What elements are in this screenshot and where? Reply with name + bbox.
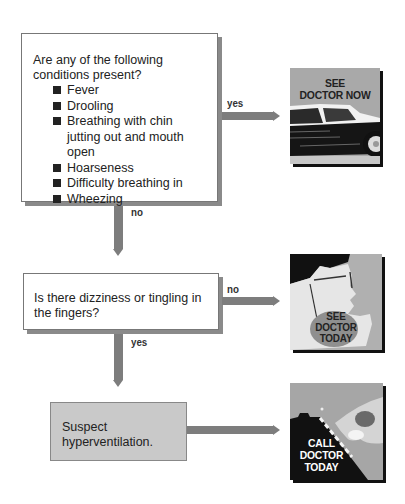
outcome-label: SEE DOCTOR NOW [295, 77, 376, 101]
outcome-see-doctor-now: SEE DOCTOR NOW [290, 68, 380, 164]
condition-item: Wheezing [53, 192, 207, 207]
question-box-dizziness: Is there dizziness or tingling in the fi… [23, 273, 219, 330]
question-prompt: Are any of the following conditions pres… [33, 53, 207, 83]
conclusion-arrow [187, 426, 273, 434]
outcome-label: CALL DOCTOR TODAY [290, 437, 377, 473]
question-box-conditions: Are any of the following conditions pres… [21, 33, 218, 202]
yes-arrow [222, 112, 273, 120]
condition-item: Difficulty breathing in [53, 176, 207, 191]
condition-item: Fever [53, 83, 207, 98]
yes-label: yes [131, 336, 147, 348]
no-label: no [131, 206, 143, 218]
no-label: no [227, 283, 239, 295]
conclusion-text: Suspect hyperventilation. [62, 420, 176, 450]
no-arrow [114, 206, 123, 249]
conclusion-box: Suspect hyperventilation. [50, 402, 187, 461]
outcome-call-doctor-today: CALL DOCTOR TODAY [290, 383, 383, 480]
outcome-label: SEE DOCTOR TODAY [295, 311, 378, 344]
condition-list: Fever Drooling Breathing with chin jutti… [33, 83, 207, 207]
condition-item: Hoarseness [53, 161, 207, 176]
outcome-see-doctor-today: SEE DOCTOR TODAY [290, 254, 382, 350]
condition-item: Breathing with chin jutting out and mout… [53, 114, 207, 160]
yes-label: yes [227, 97, 243, 109]
condition-item: Drooling [53, 99, 207, 114]
yes-arrow [114, 334, 123, 380]
no-arrow [222, 297, 273, 305]
question-prompt: Is there dizziness or tingling in the fi… [34, 291, 208, 321]
